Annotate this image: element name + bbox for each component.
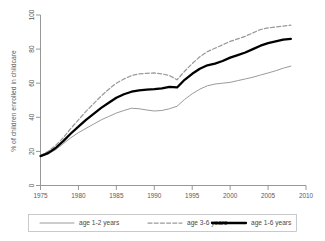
x-tick-label: 1975: [33, 192, 48, 199]
x-tick-label: 2005: [261, 192, 276, 199]
y-tick-label: 80: [28, 45, 35, 53]
y-tick-label: 60: [28, 79, 35, 87]
x-tick-label: 2010: [299, 192, 314, 199]
chart-container: % of children enrolled in childcare 0204…: [0, 0, 325, 241]
y-tick-label: 100: [28, 9, 35, 20]
series-group: [41, 25, 291, 156]
legend-label-3: age 1-6 years: [251, 219, 292, 227]
x-tick-label: 1990: [147, 192, 162, 199]
series-line-3: [41, 39, 291, 156]
y-tick-label: 0: [28, 183, 35, 187]
x-axis-ticks: 19751980198519901995200020052010: [33, 186, 313, 200]
y-axis-ticks: 020406080100: [28, 9, 41, 187]
legend-label-1: age 1-2 years: [79, 219, 120, 227]
x-tick-label: 1980: [71, 192, 86, 199]
series-line-1: [41, 66, 291, 156]
y-axis-title: % of children enrolled in childcare: [10, 50, 17, 152]
line-chart: % of children enrolled in childcare 0204…: [0, 0, 325, 241]
y-tick-label: 20: [28, 147, 35, 155]
y-tick-label: 40: [28, 113, 35, 121]
x-tick-label: 1985: [109, 192, 124, 199]
x-tick-label: 1995: [185, 192, 200, 199]
series-line-2: [41, 25, 291, 155]
x-tick-label: 2000: [223, 192, 238, 199]
